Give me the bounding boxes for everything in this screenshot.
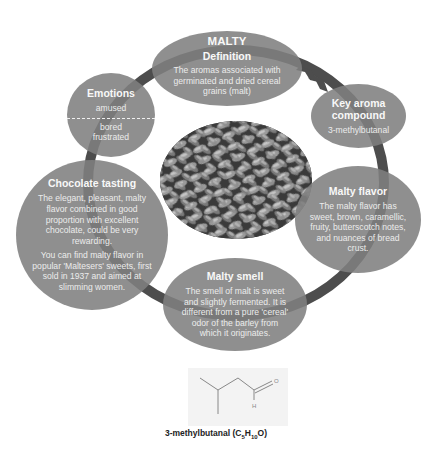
emotions-divider <box>67 118 155 119</box>
key-aroma-node: Key aroma compound 3-methylbutanal <box>311 84 406 148</box>
molecule-caption: 3-methylbutanal (C5H10O) <box>0 428 432 440</box>
malt-grains-image <box>160 121 312 239</box>
emotions-title: Emotions <box>87 87 135 99</box>
malty-smell-body: The smell of malt is sweet and slightly … <box>181 286 289 339</box>
atom-oxygen: O <box>274 378 279 384</box>
chocolate-body-1: The elegant, pleasant, malty flavor comb… <box>30 193 154 246</box>
malty-smell-title: Malty smell <box>207 270 264 282</box>
emotions-node: Emotions amused bored frustrated <box>67 73 155 157</box>
atom-hydrogen: H <box>252 403 256 409</box>
malty-flavor-title: Malty flavor <box>329 185 387 197</box>
emotion-positive: amused <box>96 103 127 114</box>
chocolate-title: Chocolate tasting <box>48 177 136 189</box>
malty-smell-node: Malty smell The smell of malt is sweet a… <box>163 258 307 351</box>
key-aroma-body: 3-methylbutanal <box>328 125 389 136</box>
chocolate-tasting-node: Chocolate tasting The elegant, pleasant,… <box>16 160 168 310</box>
molecule-structure: O H <box>188 368 288 426</box>
definition-title: Definition <box>203 50 251 62</box>
key-aroma-title: Key aroma compound <box>323 97 394 121</box>
diagram-title: MALTY <box>208 35 247 47</box>
malty-flavor-body: The malty flavor has sweet, brown, caram… <box>309 201 407 254</box>
emotion-negative-1: bored <box>100 122 122 133</box>
chocolate-body-2: You can find malty flavor in popular 'Ma… <box>30 250 154 292</box>
emotion-negative-2: frustrated <box>93 132 129 143</box>
definition-body: The aromas associated with germinated an… <box>162 65 292 97</box>
malty-flavor-node: Malty flavor The malty flavor has sweet,… <box>295 166 421 273</box>
malty-diagram: MALTY Definition The aromas associated w… <box>0 0 432 451</box>
definition-node: MALTY Definition The aromas associated w… <box>152 31 302 106</box>
